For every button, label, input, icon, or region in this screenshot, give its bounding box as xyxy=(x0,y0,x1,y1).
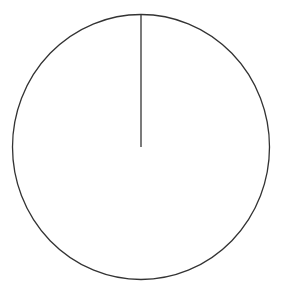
pie-chart xyxy=(0,0,290,290)
pie-chart-canvas xyxy=(0,0,290,290)
